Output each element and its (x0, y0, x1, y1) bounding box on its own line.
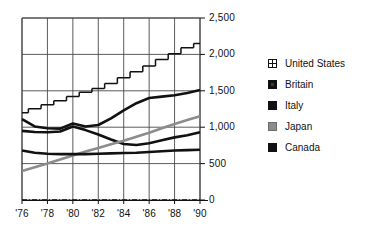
legend-label: Italy (285, 100, 303, 111)
y-tick-label: 500 (209, 159, 226, 169)
x-tick-label: '76 (11, 209, 33, 219)
y-tick-label: 2,000 (209, 49, 235, 59)
x-tick-label: '78 (36, 209, 58, 219)
legend-swatch-italy-icon (268, 101, 277, 110)
legend-item-united-states: United States (268, 53, 384, 74)
legend-item-britain: Britain (268, 74, 384, 95)
plot-area (0, 0, 256, 239)
x-tick-label: '88 (164, 209, 186, 219)
x-tick-label: '90 (189, 209, 211, 219)
x-tick-label: '82 (87, 209, 109, 219)
legend-item-canada: Canada (268, 137, 384, 158)
legend-swatch-britain-icon (268, 80, 277, 89)
chart-screenshot: 2,500 2,000 1,500 1,000 500 0 '76 '78 '8… (0, 0, 386, 239)
chart-legend: United States Britain Italy Japan Canada (268, 53, 384, 158)
line-chart: 2,500 2,000 1,500 1,000 500 0 '76 '78 '8… (0, 0, 256, 239)
legend-item-japan: Japan (268, 116, 384, 137)
legend-label: Britain (285, 79, 313, 90)
y-tick-label: 0 (209, 195, 215, 205)
y-tick-label: 1,000 (209, 122, 235, 132)
legend-swatch-canada-icon (268, 143, 277, 152)
legend-label: United States (285, 58, 345, 69)
x-tick-label: '80 (62, 209, 84, 219)
legend-swatch-united-states-icon (268, 59, 277, 68)
legend-label: Canada (285, 142, 320, 153)
legend-swatch-japan-icon (268, 122, 277, 131)
y-tick-label: 1,500 (209, 86, 235, 96)
x-tick-label: '84 (113, 209, 135, 219)
y-tick-label: 2,500 (209, 13, 235, 23)
legend-item-italy: Italy (268, 95, 384, 116)
x-tick-label: '86 (138, 209, 160, 219)
legend-label: Japan (285, 121, 312, 132)
